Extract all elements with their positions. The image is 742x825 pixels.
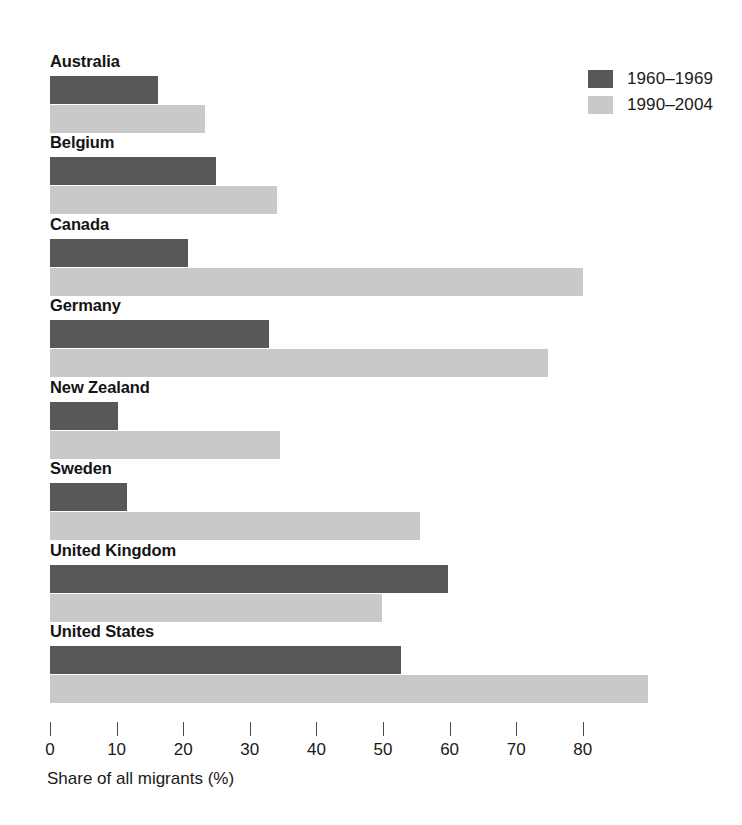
bar-1960-1969 [50,646,401,674]
axis-tick-label: 0 [45,740,54,760]
bar-1990-2004 [50,594,382,622]
bar-group: Canada [0,215,742,297]
bar-chart: 1960–19691990–2004 AustraliaBelgiumCanad… [0,0,742,825]
axis-tick [450,722,451,736]
bar-1990-2004 [50,675,648,703]
axis-tick [583,722,584,736]
x-axis-title: Share of all migrants (%) [47,769,234,789]
category-label: Sweden [50,459,112,478]
bar-1960-1969 [50,239,188,267]
axis-tick [516,722,517,736]
category-label: United States [50,622,154,641]
category-label: Belgium [50,133,114,152]
axis-tick-label: 70 [507,740,526,760]
axis-tick-label: 30 [240,740,259,760]
bar-1960-1969 [50,157,216,185]
category-label: New Zealand [50,378,150,397]
axis-tick [117,722,118,736]
bar-group: United States [0,622,742,704]
bar-group: Sweden [0,459,742,541]
axis-tick [183,722,184,736]
bar-1990-2004 [50,105,205,133]
category-label: Canada [50,215,109,234]
axis-tick [383,722,384,736]
axis-tick-label: 20 [174,740,193,760]
category-label: United Kingdom [50,541,176,560]
x-axis: Share of all migrants (%) 01020304050607… [0,714,742,825]
bar-1960-1969 [50,565,448,593]
axis-tick [250,722,251,736]
axis-tick-label: 10 [107,740,126,760]
bar-1990-2004 [50,349,548,377]
bar-1990-2004 [50,186,277,214]
bar-group: New Zealand [0,378,742,460]
axis-tick [316,722,317,736]
bar-1990-2004 [50,268,583,296]
axis-tick [50,722,51,736]
bar-1960-1969 [50,320,269,348]
axis-tick-label: 60 [440,740,459,760]
bar-1990-2004 [50,431,280,459]
bar-1960-1969 [50,76,158,104]
chart-plot-area: AustraliaBelgiumCanadaGermanyNew Zealand… [0,0,742,714]
category-label: Germany [50,296,121,315]
bar-group: Belgium [0,133,742,215]
bar-1990-2004 [50,512,420,540]
bar-group: Germany [0,296,742,378]
category-label: Australia [50,52,120,71]
axis-tick-label: 40 [307,740,326,760]
bar-1960-1969 [50,483,127,511]
bar-1960-1969 [50,402,118,430]
axis-tick-label: 50 [374,740,393,760]
bar-group: United Kingdom [0,541,742,623]
axis-tick-label: 80 [573,740,592,760]
bar-group: Australia [0,52,742,134]
